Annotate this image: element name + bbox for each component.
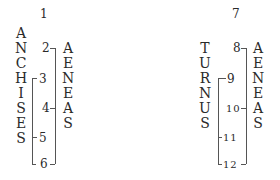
letter: N bbox=[199, 86, 211, 101]
line-number: 11 bbox=[223, 132, 238, 144]
line-number: 10 bbox=[226, 103, 241, 115]
name-turnus: T U R N U S bbox=[198, 41, 212, 131]
letter: E bbox=[253, 86, 263, 101]
diagram-turnus-aeneas: 7 T U R N U S A E N E A S 8 9 10 11 12 bbox=[0, 0, 280, 180]
line-number: 12 bbox=[223, 159, 238, 171]
letter: R bbox=[200, 71, 211, 86]
line-number: 8 bbox=[233, 42, 241, 54]
tick bbox=[241, 108, 246, 109]
turnus-bracket-line bbox=[218, 78, 219, 164]
letter: A bbox=[253, 41, 263, 56]
line-number: 9 bbox=[227, 73, 235, 85]
tick bbox=[241, 164, 246, 165]
letter: T bbox=[200, 41, 209, 56]
tick bbox=[218, 164, 222, 165]
letter: A bbox=[253, 101, 263, 116]
tick bbox=[218, 137, 222, 138]
letter: U bbox=[199, 101, 211, 116]
letter: S bbox=[253, 116, 263, 131]
tick bbox=[218, 78, 226, 79]
letter: U bbox=[199, 56, 211, 71]
tick bbox=[241, 48, 246, 49]
aeneas-bracket-line bbox=[246, 48, 247, 164]
letter: N bbox=[252, 71, 264, 86]
letter: S bbox=[200, 116, 210, 131]
name-aeneas: A E N E A S bbox=[251, 41, 265, 131]
top-number: 7 bbox=[232, 8, 240, 20]
letter: E bbox=[253, 56, 263, 71]
